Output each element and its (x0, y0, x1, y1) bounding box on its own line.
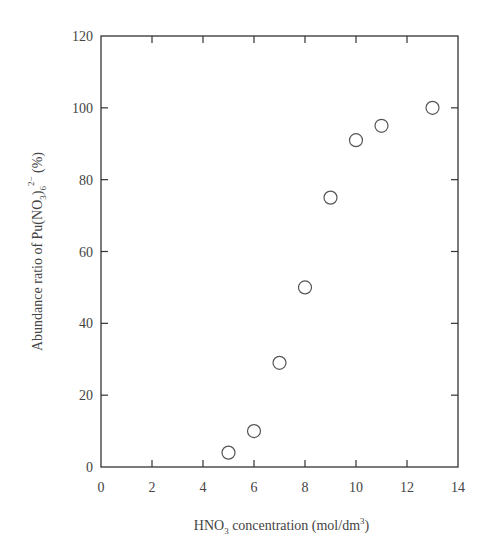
data-point (299, 281, 312, 294)
y-tick-label: 0 (86, 460, 93, 475)
x-axis-label: HNO3 concentration (mol/dm3) (194, 516, 370, 536)
data-point (350, 134, 363, 147)
y-tick-label: 100 (72, 101, 93, 116)
x-tick-label: 12 (400, 480, 414, 495)
x-tick-label: 14 (451, 480, 465, 495)
y-tick-label: 60 (79, 245, 93, 260)
data-point (248, 425, 261, 438)
y-tick-label: 20 (79, 388, 93, 403)
x-tick-label: 2 (149, 480, 156, 495)
y-axis-label: Abundance ratio of Pu(NO3)62− (%) (26, 152, 48, 351)
data-point (273, 356, 286, 369)
x-tick-label: 4 (200, 480, 207, 495)
x-tick-label: 6 (251, 480, 258, 495)
y-tick-label: 40 (79, 316, 93, 331)
data-point (426, 101, 439, 114)
data-point (375, 119, 388, 132)
y-tick-label: 80 (79, 173, 93, 188)
scatter-chart: 02468101214020406080100120HNO3 concentra… (0, 0, 486, 548)
x-tick-label: 0 (98, 480, 105, 495)
y-tick-label: 120 (72, 29, 93, 44)
x-tick-label: 10 (349, 480, 363, 495)
data-point (222, 446, 235, 459)
plot-frame (101, 36, 458, 467)
x-tick-label: 8 (302, 480, 309, 495)
data-point (324, 191, 337, 204)
